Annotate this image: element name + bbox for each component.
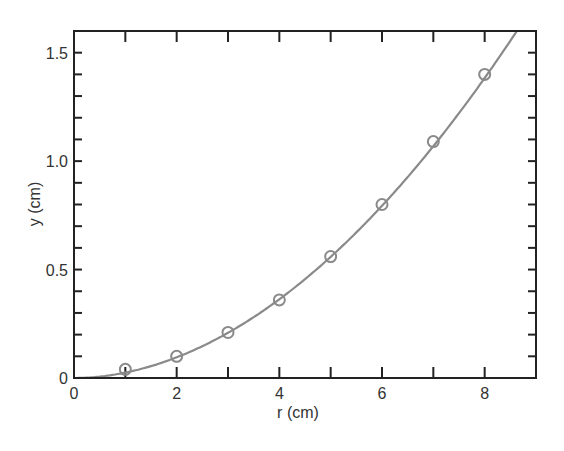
fit-curve: [74, 31, 517, 378]
x-tick-label: 2: [172, 385, 181, 402]
y-tick-label: 0.5: [46, 262, 68, 279]
data-points: [120, 69, 490, 375]
x-tick-label: 4: [275, 385, 284, 402]
x-tick-label: 8: [480, 385, 489, 402]
x-tick-label: 0: [70, 385, 79, 402]
y-tick-label: 1.5: [46, 45, 68, 62]
y-tick-label: 1.0: [46, 153, 68, 170]
y-axis-label: y (cm): [26, 182, 43, 226]
chart: 0246800.51.01.5 r (cm) y (cm): [0, 0, 564, 451]
x-tick-label: 6: [378, 385, 387, 402]
plot-frame: [74, 31, 536, 378]
tick-labels: 0246800.51.01.5: [46, 45, 489, 402]
axis-ticks: [74, 31, 536, 378]
x-axis-label: r (cm): [277, 404, 319, 421]
y-tick-label: 0: [59, 370, 68, 387]
